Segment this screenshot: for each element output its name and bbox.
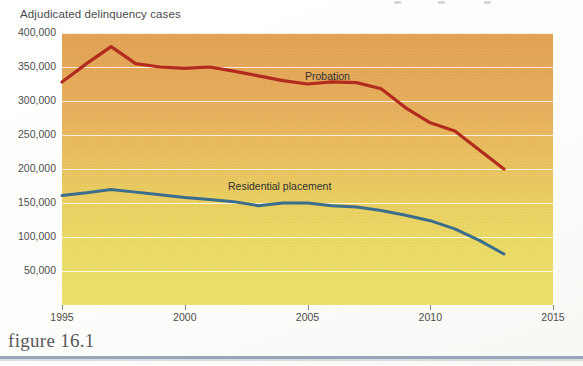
scan-smudge bbox=[394, 1, 401, 4]
y-axis-tick-label: 400,000 bbox=[0, 26, 56, 38]
x-axis-tick-label: 2005 bbox=[296, 311, 319, 323]
x-axis-tick bbox=[553, 305, 554, 310]
x-axis-tick bbox=[430, 305, 431, 310]
scan-smudge bbox=[438, 1, 445, 4]
series-label-probation: Probation bbox=[305, 70, 350, 82]
x-axis-tick-label: 2015 bbox=[541, 311, 564, 323]
series-label-residential-placement: Residential placement bbox=[228, 180, 331, 192]
x-axis-tick bbox=[62, 305, 63, 310]
figure-16-1: Adjudicated delinquency cases Probation … bbox=[0, 0, 583, 366]
x-axis-tick bbox=[308, 305, 309, 310]
y-axis-tick-label: 300,000 bbox=[0, 94, 56, 106]
caption-rule-shadow bbox=[0, 359, 583, 361]
x-axis-tick-label: 1995 bbox=[50, 311, 73, 323]
figure-caption: figure 16.1 bbox=[8, 330, 95, 352]
scan-smudge bbox=[484, 1, 491, 4]
x-axis-tick-label: 2000 bbox=[173, 311, 196, 323]
chart-title: Adjudicated delinquency cases bbox=[20, 8, 181, 20]
line-probation bbox=[62, 47, 504, 169]
y-axis-tick-label: 150,000 bbox=[0, 196, 56, 208]
x-axis-tick-label: 2010 bbox=[419, 311, 442, 323]
y-axis-tick-label: 350,000 bbox=[0, 60, 56, 72]
y-axis-tick-label: 100,000 bbox=[0, 230, 56, 242]
y-axis-tick-label: 250,000 bbox=[0, 128, 56, 140]
x-axis-tick bbox=[185, 305, 186, 310]
y-axis-tick-label: 50,000 bbox=[0, 264, 56, 276]
y-axis-tick-label: 200,000 bbox=[0, 162, 56, 174]
line-residential-placement bbox=[62, 189, 504, 254]
